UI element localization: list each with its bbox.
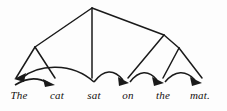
word-the-1: The [10,89,27,101]
word-cat: cat [50,89,64,101]
sentence-word-layer: The cat sat on the mat. [0,0,227,111]
word-the-2: the [156,89,170,101]
word-on: on [122,89,133,101]
word-sat: sat [87,89,100,101]
syntax-tree-figure: The cat sat on the mat. [0,0,227,111]
word-mat: mat. [190,89,210,101]
